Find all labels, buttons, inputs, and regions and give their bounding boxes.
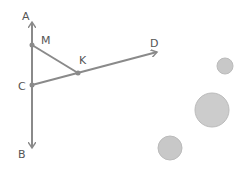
label-m: M	[41, 34, 51, 47]
point-k	[76, 71, 81, 76]
label-a: A	[22, 10, 30, 23]
point-c	[30, 83, 35, 88]
geometry-diagram: A M C B K D	[0, 0, 245, 169]
large-circle	[195, 93, 229, 127]
label-c: C	[18, 80, 26, 93]
label-d: D	[150, 37, 158, 50]
segment-mk	[32, 45, 78, 73]
medium-circle	[158, 136, 182, 160]
point-m	[30, 43, 35, 48]
label-b: B	[18, 148, 26, 161]
small-circle	[217, 58, 233, 74]
label-k: K	[79, 54, 87, 67]
